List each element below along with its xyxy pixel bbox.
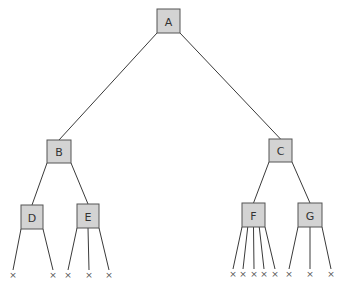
edge-A-B	[59, 33, 157, 140]
node-label: A	[165, 16, 173, 29]
node-c: C	[269, 139, 292, 162]
leaf-cross-icon: ×	[229, 269, 237, 279]
leaf-cross-icon: ×	[49, 270, 57, 280]
leaf-edge-E	[88, 228, 89, 270]
nodes-layer: ABCDEFG	[21, 9, 322, 229]
leaf-edge-D	[13, 229, 21, 270]
leaves-layer: ×××××××××××××	[9, 269, 335, 280]
leaf-edge-F	[265, 227, 275, 269]
edge-B-D	[32, 163, 47, 205]
leaf-edge-F	[233, 227, 242, 269]
node-label: C	[277, 145, 285, 158]
node-e: E	[77, 204, 99, 228]
edge-C-F	[254, 162, 270, 203]
edge-A-C	[180, 33, 281, 139]
leaf-edge-G	[289, 227, 298, 269]
node-f: F	[242, 203, 265, 227]
node-a: A	[157, 9, 180, 33]
leaf-cross-icon: ×	[271, 269, 279, 279]
node-b: B	[47, 140, 71, 163]
node-label: G	[306, 210, 315, 223]
leaf-edge-G	[322, 227, 331, 269]
leaf-cross-icon: ×	[306, 269, 314, 279]
leaf-cross-icon: ×	[105, 270, 113, 280]
tree-diagram: ABCDEFG ×××××××××××××	[0, 0, 342, 291]
leaf-edge-D	[43, 229, 53, 270]
leaf-cross-icon: ×	[239, 269, 247, 279]
leaf-cross-icon: ×	[285, 269, 293, 279]
leaf-edge-F	[254, 227, 255, 269]
leaf-edge-F	[259, 227, 264, 269]
node-d: D	[21, 205, 43, 229]
node-label: E	[85, 211, 92, 224]
node-label: F	[250, 210, 256, 223]
node-label: D	[28, 212, 36, 225]
leaf-cross-icon: ×	[327, 269, 335, 279]
node-label: B	[55, 146, 63, 159]
leaf-cross-icon: ×	[64, 270, 72, 280]
leaf-cross-icon: ×	[85, 270, 93, 280]
leaf-edge-E	[68, 228, 77, 270]
leaf-cross-icon: ×	[9, 270, 17, 280]
node-g: G	[298, 203, 322, 227]
leaf-edge-F	[243, 227, 248, 269]
leaf-cross-icon: ×	[250, 269, 258, 279]
leaf-edge-E	[99, 228, 109, 270]
edges-layer	[32, 33, 310, 205]
leaf-cross-icon: ×	[260, 269, 268, 279]
edge-C-G	[292, 162, 310, 203]
leaf-edges-layer	[13, 227, 331, 270]
edge-B-E	[71, 163, 88, 204]
